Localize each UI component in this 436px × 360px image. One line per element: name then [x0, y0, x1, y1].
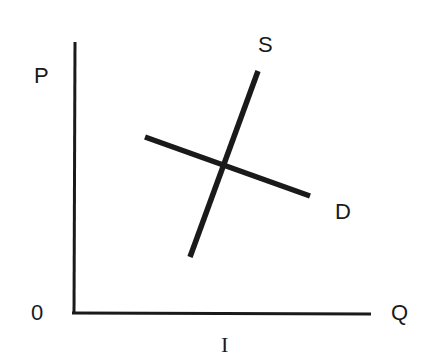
- supply-demand-diagram: P S D 0 Q I: [0, 0, 436, 360]
- diagram-caption: I: [221, 332, 228, 357]
- x-axis-label: Q: [391, 300, 408, 325]
- origin-label: 0: [31, 300, 43, 325]
- x-axis: [72, 313, 371, 314]
- y-axis: [74, 42, 75, 314]
- demand-label: D: [335, 199, 351, 224]
- y-axis-label: P: [34, 63, 49, 88]
- supply-label: S: [258, 32, 273, 57]
- demand-curve: [145, 137, 310, 196]
